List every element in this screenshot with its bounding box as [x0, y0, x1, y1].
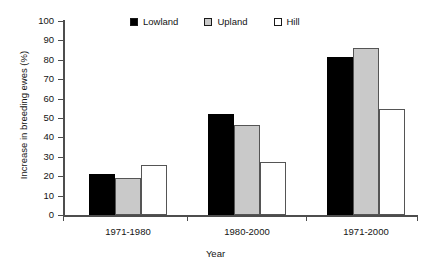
x-axis-tick: [306, 215, 307, 221]
bar-chart: Lowland Upland Hill Increase in breeding…: [0, 0, 431, 273]
y-axis-tick-label: 70: [24, 74, 54, 84]
y-axis-tick-label: 30: [24, 152, 54, 162]
x-axis-tick: [417, 215, 418, 221]
bar-upland-1971-2000: [353, 48, 379, 215]
y-axis-tick-label: 10: [24, 191, 54, 201]
x-axis-tick: [187, 215, 188, 221]
bar-lowland-1971-1980: [89, 174, 115, 215]
y-axis-tick-label: 0: [24, 210, 54, 220]
bar-upland-1980-2000: [234, 125, 260, 215]
bar-upland-1971-1980: [115, 178, 141, 215]
x-axis-title: Year: [0, 248, 431, 259]
x-axis-category-label: 1971-2000: [321, 226, 411, 237]
x-axis-category-label: 1980-2000: [202, 226, 292, 237]
y-axis-tick-label: 80: [24, 55, 54, 65]
plot-area: [63, 21, 417, 215]
y-axis-tick-label: 40: [24, 132, 54, 142]
y-axis-tick-label: 60: [24, 94, 54, 104]
x-axis-tick: [63, 215, 64, 221]
y-axis-tick-label: 20: [24, 171, 54, 181]
x-axis-line: [63, 215, 417, 217]
y-axis-tick-label: 90: [24, 35, 54, 45]
bar-hill-1980-2000: [260, 162, 286, 215]
bar-lowland-1971-2000: [327, 57, 353, 215]
bar-lowland-1980-2000: [208, 114, 234, 215]
x-axis-category-label: 1971-1980: [83, 226, 173, 237]
y-axis-tick-label: 100: [24, 16, 54, 26]
bar-hill-1971-2000: [379, 109, 405, 215]
bar-hill-1971-1980: [141, 165, 167, 215]
y-axis-tick-label: 50: [24, 113, 54, 123]
